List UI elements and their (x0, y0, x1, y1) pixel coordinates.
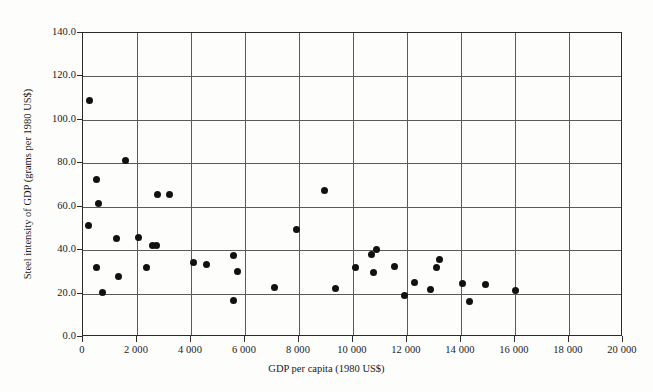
data-point (115, 273, 122, 280)
gridline-vertical (461, 33, 462, 335)
gridline-vertical (245, 33, 246, 335)
gridline-horizontal (83, 163, 621, 164)
data-point (135, 234, 142, 241)
data-point (459, 280, 466, 287)
data-point (99, 289, 106, 296)
data-point (153, 242, 160, 249)
data-point (427, 286, 434, 293)
x-axis-tick-mark (568, 336, 569, 342)
gridline-horizontal (83, 120, 621, 121)
x-axis-tick-mark (622, 336, 623, 342)
gridline-horizontal (83, 250, 621, 251)
data-point (512, 287, 519, 294)
data-point (122, 157, 129, 164)
y-axis-tick-label: 100.0 (30, 114, 76, 124)
gridline-vertical (137, 33, 138, 335)
x-axis-tick-mark (244, 336, 245, 342)
gridline-vertical (569, 33, 570, 335)
data-point (436, 256, 443, 263)
x-axis-tick-mark (136, 336, 137, 342)
x-axis-tick-mark (190, 336, 191, 342)
y-axis-tick-label: 80.0 (30, 157, 76, 167)
data-point (321, 187, 328, 194)
data-point (352, 264, 359, 271)
gridline-vertical (191, 33, 192, 335)
gridline-horizontal (83, 76, 621, 77)
x-axis-tick-mark (514, 336, 515, 342)
x-axis-tick-mark (298, 336, 299, 342)
data-point (466, 298, 473, 305)
data-point (373, 246, 380, 253)
data-point (433, 264, 440, 271)
data-point (332, 285, 339, 292)
gridline-vertical (353, 33, 354, 335)
data-point (154, 191, 161, 198)
data-point (391, 263, 398, 270)
data-point (482, 281, 489, 288)
y-axis-tick-label: 0.0 (30, 331, 76, 341)
x-axis-tick-mark (82, 336, 83, 342)
gridline-horizontal (83, 294, 621, 295)
data-point (93, 264, 100, 271)
gridline-vertical (299, 33, 300, 335)
data-point (271, 284, 278, 291)
data-point (401, 292, 408, 299)
x-axis-title: GDP per capita (1980 US$) (0, 363, 653, 374)
data-point (370, 269, 377, 276)
data-point (166, 191, 173, 198)
data-point (411, 279, 418, 286)
gridline-horizontal (83, 207, 621, 208)
data-point (113, 235, 120, 242)
data-point (143, 264, 150, 271)
y-axis-tick-label: 140.0 (30, 27, 76, 37)
data-point (85, 222, 92, 229)
x-axis-tick-mark (460, 336, 461, 342)
x-axis-tick-mark (352, 336, 353, 342)
data-point (230, 252, 237, 259)
scatter-chart-figure: Steel intensity of GDP (grams per 1980 U… (0, 0, 653, 392)
y-axis-tick-label: 20.0 (30, 288, 76, 298)
data-point (234, 268, 241, 275)
plot-area (82, 32, 622, 336)
data-point (190, 259, 197, 266)
y-axis-tick-label: 60.0 (30, 201, 76, 211)
data-point (93, 176, 100, 183)
y-axis-tick-label: 120.0 (30, 70, 76, 80)
x-axis-tick-mark (406, 336, 407, 342)
data-point (230, 297, 237, 304)
y-axis-tick-label: 40.0 (30, 244, 76, 254)
data-point (203, 261, 210, 268)
gridline-vertical (407, 33, 408, 335)
x-axis-tick-label: 20 000 (587, 344, 653, 355)
data-point (86, 97, 93, 104)
